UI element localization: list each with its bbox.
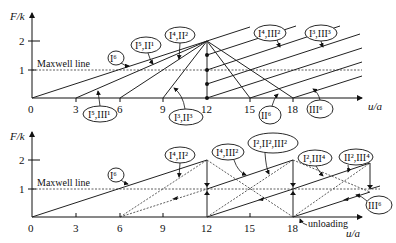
svg-text:II⁶: II⁶ [261,110,272,121]
svg-text:I⁴,III²: I⁴,III² [258,28,280,39]
state-label-I2-III4: I²,III⁴ [298,150,332,176]
svg-text:I⁵,II¹: I⁵,II¹ [135,40,154,51]
state-label-I4-III2: I⁴,III² [212,144,246,175]
state-label-I5-III1: I⁵,III¹ [83,91,117,122]
svg-text:18: 18 [287,222,299,234]
svg-text:I⁶: I⁶ [110,53,117,64]
maxwell-label: Maxwell line [37,58,91,69]
svg-text:I³,II³: I³,II³ [174,112,193,123]
svg-text:6: 6 [117,103,123,115]
unloading-label: unloading [300,218,348,229]
y-tick-1: 1 [19,183,25,195]
svg-text:9: 9 [160,103,166,115]
svg-text:3: 3 [73,103,79,115]
x-ticks: 0 3 6 9 12 15 18 [28,213,299,234]
state-label-I3-II3: I³,II³ [169,88,203,125]
figure: F/k u/a 2 1 0 3 6 9 12 15 18 Maxwell lin… [0,0,396,243]
svg-text:I²,III⁴: I²,III⁴ [303,153,326,164]
svg-text:I⁶: I⁶ [110,170,117,181]
y-tick-2: 2 [19,35,25,47]
top-panel: F/k u/a 2 1 0 3 6 9 12 15 18 Maxwell lin… [9,10,383,125]
svg-text:3: 3 [73,222,79,234]
svg-text:15: 15 [244,222,256,234]
svg-text:I³,III³: I³,III³ [309,28,331,39]
svg-text:III⁶: III⁶ [368,200,382,211]
y-axis-label: F/k [9,10,26,22]
x-axis-label: u/a [346,227,361,239]
state-label-I5-II1: I⁵,II¹ [131,37,161,64]
svg-text:I⁴,II²: I⁴,II² [169,30,188,41]
state-label-III6: III⁶ [356,195,392,214]
paths [32,160,380,217]
state-label-I6: I⁶ [108,51,129,66]
svg-text:15: 15 [244,103,256,115]
svg-text:I⁵,III¹: I⁵,III¹ [88,109,110,120]
state-label-I4-II2: I⁴,II² [165,27,195,59]
state-label-I2-II2-III2: I²,II²,III² [248,133,298,174]
maxwell-label: Maxwell line [37,177,91,188]
y-tick-1: 1 [19,64,25,76]
bottom-panel: F/k u/a 2 1 0 3 6 9 12 15 18 Maxwell lin… [9,130,392,239]
state-label-I3-III3: I³,III³ [305,25,337,47]
y-tick-2: 2 [19,154,25,166]
svg-text:I⁴,III²: I⁴,III² [216,147,238,158]
x-axis-label: u/a [368,100,383,112]
svg-text:II²,III⁴: II²,III⁴ [344,152,370,163]
x-ticks: 0 3 6 9 12 15 18 [28,98,299,115]
svg-text:9: 9 [160,222,166,234]
state-label-I6: I⁶ [108,168,128,184]
svg-text:0: 0 [28,222,34,234]
svg-text:18: 18 [287,103,299,115]
svg-text:unloading: unloading [308,218,348,229]
state-label-II2-III4: II²,III⁴ [339,149,373,172]
svg-text:III⁶: III⁶ [309,104,323,115]
svg-text:I⁴,II²: I⁴,II² [169,150,188,161]
svg-text:12: 12 [201,222,212,234]
svg-text:12: 12 [201,103,212,115]
state-label-I4-III2: I⁴,III² [254,25,286,47]
y-axis-label: F/k [9,130,26,142]
svg-text:6: 6 [117,222,123,234]
svg-text:0: 0 [28,103,34,115]
svg-text:I²,II²,III²: I²,II²,III² [253,138,287,149]
state-label-III6: III⁶ [307,89,333,118]
